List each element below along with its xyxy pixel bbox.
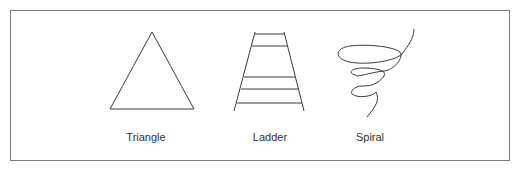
figures-canvas: [0, 0, 521, 170]
triangle-icon: [110, 32, 194, 109]
ladder-icon: [234, 32, 304, 111]
ladder-label: Ladder: [253, 131, 287, 143]
spiral-icon: [338, 29, 414, 117]
triangle-label: Triangle: [126, 131, 165, 143]
spiral-label: Spiral: [356, 131, 384, 143]
